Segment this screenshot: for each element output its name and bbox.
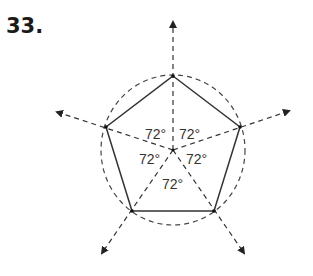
radial-arrows — [57, 22, 289, 253]
pentagon-diagram: 72° 72° 72° 72° 72° — [0, 0, 313, 276]
angle-label: 72° — [179, 126, 200, 142]
angle-label: 72° — [186, 151, 207, 167]
angle-label: 72° — [162, 176, 183, 192]
angle-label: 72° — [145, 126, 166, 142]
angle-label: 72° — [139, 151, 160, 167]
